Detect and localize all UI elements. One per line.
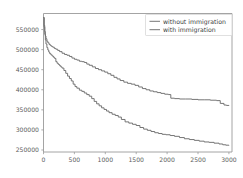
x-tick-label: 2500 [190,156,206,163]
x-tick-label: 0 [42,156,46,163]
x-tick-label: 2000 [159,156,175,163]
y-tick-label: 550000 [16,26,39,33]
chart-legend: without immigrationwith immigration [146,15,233,36]
x-tick-label: 1500 [128,156,144,163]
y-tick-label: 250000 [16,146,39,153]
x-tick-label: 500 [69,156,81,163]
x-tick-label: 1000 [98,156,114,163]
chart-figure: 2500003000003500004000004500005000005500… [0,0,243,178]
legend-label: with immigration [163,26,216,34]
y-tick-label: 450000 [16,66,39,73]
y-tick-label: 500000 [16,46,39,53]
y-tick-label: 300000 [16,126,39,133]
y-tick-label: 400000 [16,86,39,93]
y-tick-label: 350000 [16,106,39,113]
line-chart: 2500003000003500004000004500005000005500… [0,0,243,178]
legend-label: without immigration [163,18,226,26]
x-tick-label: 3000 [221,156,237,163]
